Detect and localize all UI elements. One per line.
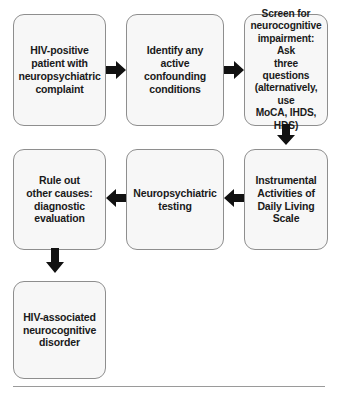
flow-node-label: Identify any active confounding conditio… [132,44,218,95]
flow-node-hiv-positive-patient: HIV-positive patient with neuropsychiatr… [13,14,106,126]
flow-node-neuropsychiatric-testing: Neuropsychiatric testing [126,149,224,250]
arrow-left-testing-to-rule-out [106,188,126,208]
flow-node-rule-out-other-causes: Rule out other causes: diagnostic evalua… [13,149,106,250]
flow-node-instrumental-activities-daily-living-scale: Instrumental Activities of Daily Living … [244,149,328,250]
flow-node-hiv-associated-neurocognitive-disorder: HIV-associated neurocognitive disorder [13,281,106,379]
arrow-left-iadl-to-testing [224,188,244,208]
flow-node-label: Rule out other causes: diagnostic evalua… [26,174,92,225]
arrow-down-screen-to-iadl [276,124,296,146]
arrow-right-identify-to-screen [224,60,244,80]
flow-node-label: Screen for neurocognitive impairment: As… [250,8,322,132]
flow-node-label: HIV-associated neurocognitive disorder [23,311,96,349]
flow-node-label: Neuropsychiatric testing [133,187,216,213]
flow-node-identify-confounding-conditions: Identify any active confounding conditio… [126,14,224,126]
arrow-down-rule-out-to-diagnosis [45,248,65,274]
bottom-divider-rule [13,386,325,387]
flow-node-label: HIV-positive patient with neuropsychiatr… [18,44,100,95]
arrow-right-patient-to-identify [106,60,126,80]
flowchart-canvas: HIV-positive patient with neuropsychiatr… [0,0,337,394]
flow-node-screen-neurocognitive-impairment: Screen for neurocognitive impairment: As… [244,14,328,126]
flow-node-label: Instrumental Activities of Daily Living … [255,174,316,225]
